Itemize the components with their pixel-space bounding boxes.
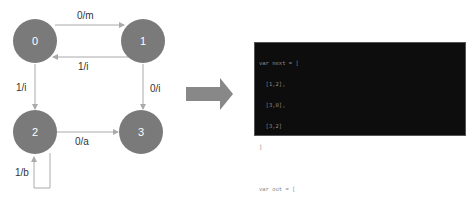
code-line: [3,0], [259,102,461,109]
code-line: var next = [ [259,60,461,67]
edge-label-2-3: 0/a [75,136,89,147]
edge-label-1-0: 1/i [78,61,89,72]
edge-2-self-loop [34,153,50,188]
svg-text:2: 2 [32,126,38,138]
code-line [259,165,461,172]
code-line: var out = [ [259,186,461,193]
svg-text:0: 0 [32,35,38,47]
state-0: 0 [13,19,57,63]
right-arrow-icon [186,78,233,110]
svg-text:3: 3 [138,126,144,138]
code-line: [1,2], [259,81,461,88]
code-line: [3,2] [259,123,461,130]
state-1: 1 [121,19,165,63]
state-3: 3 [119,110,163,154]
code-line: ] [259,144,461,151]
state-2: 2 [13,110,57,154]
edge-label-2-2: 1/b [15,167,29,178]
code-panel: var next = [ [1,2], [3,0], [3,2] ] var o… [254,42,466,136]
edge-label-0-1: 0/m [77,10,94,21]
svg-text:1: 1 [140,35,146,47]
edge-label-1-3: 0/i [150,83,161,94]
edge-label-0-2: 1/i [16,82,27,93]
